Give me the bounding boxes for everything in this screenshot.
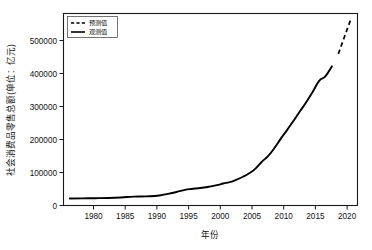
series-line-observed [70, 66, 332, 198]
series-line-forecast [338, 18, 351, 54]
x-tick-label: 2000 [211, 212, 230, 221]
legend-label-forecast: 预测值 [89, 19, 107, 27]
y-axis-tick-labels: 0 100000 200000 300000 400000 500000 [30, 37, 58, 211]
x-tick-label: 2020 [338, 212, 357, 221]
x-tick-label: 1995 [179, 212, 198, 221]
chart-legend: 预测值 观测值 [68, 17, 118, 38]
plot-frame [64, 14, 358, 206]
x-tick-label: 2010 [275, 212, 294, 221]
y-tick-label: 400000 [30, 70, 58, 79]
y-axis-title: 社会消费品零售总额(单位：亿元) [5, 44, 16, 176]
x-tick-label: 1985 [116, 212, 135, 221]
y-tick-label: 100000 [30, 169, 58, 178]
x-tick-label: 2005 [243, 212, 262, 221]
x-axis-tick-labels: 1980 1985 1990 1995 2000 2005 2010 2015 … [84, 212, 356, 221]
y-tick-label: 0 [52, 202, 57, 211]
chart-figure: 0 100000 200000 300000 400000 500000 198… [0, 0, 372, 250]
legend-label-observed: 观测值 [89, 28, 107, 36]
y-axis-ticks [60, 41, 64, 206]
y-tick-label: 300000 [30, 103, 58, 112]
x-tick-label: 1980 [84, 212, 103, 221]
x-tick-label: 2015 [306, 212, 325, 221]
x-axis-title: 年份 [201, 229, 219, 240]
x-tick-label: 1990 [148, 212, 167, 221]
x-axis-ticks [94, 206, 348, 210]
y-tick-label: 500000 [30, 37, 58, 46]
y-tick-label: 200000 [30, 136, 58, 145]
line-chart: 0 100000 200000 300000 400000 500000 198… [0, 0, 372, 250]
